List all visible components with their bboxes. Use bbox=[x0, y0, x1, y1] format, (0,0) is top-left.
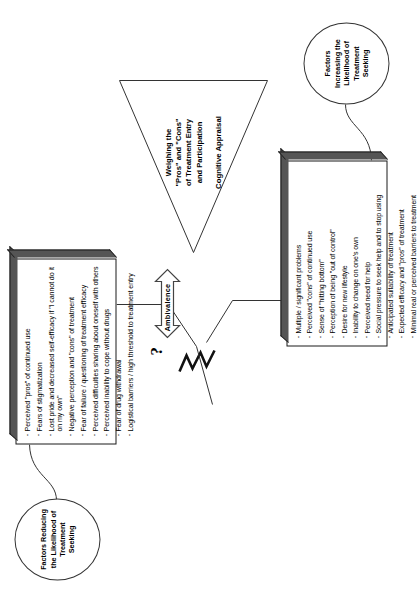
callout-reducing-label: Factors Reducing the Likelihood of Treat… bbox=[38, 499, 76, 579]
list-item: Fear of failure / questioning of treatme… bbox=[79, 266, 88, 436]
box-reducing-right-face bbox=[6, 249, 116, 257]
triangle-text-line: of Treatment Entry bbox=[183, 92, 193, 212]
callout-increasing-label: Factors Increasing the Likelihood of Tre… bbox=[322, 23, 369, 103]
list-item: Multiple / significant problems bbox=[294, 168, 302, 338]
list-item: Minimal real or perceived barriers to tr… bbox=[409, 168, 417, 338]
triangle-text-line: "Pros" and "Cons" bbox=[173, 92, 183, 212]
list-item: Sense of "hitting bottom" bbox=[317, 168, 325, 338]
increasing-bullet-list: Multiple / significant problems Perceive… bbox=[294, 168, 381, 338]
list-item: Expected efficacy and "pros" of treatmen… bbox=[397, 168, 405, 338]
callout-reducing-likelihood: Factors Reducing the Likelihood of Treat… bbox=[14, 498, 100, 580]
list-item: Perceived need for help bbox=[363, 168, 371, 338]
list-item: Perceived "cons" of continued use bbox=[305, 168, 313, 338]
box-increasing-factors: Multiple / significant problems Perceive… bbox=[286, 160, 387, 346]
box-reducing-factors: Perceived "pros" of continued use Fears … bbox=[15, 258, 116, 444]
triangle-text: Weighing the "Pros" and "Cons" of Treatm… bbox=[163, 92, 204, 212]
box-reducing-top-face bbox=[9, 245, 17, 440]
box-increasing-right-face bbox=[277, 151, 387, 159]
list-item: Negative perception and "cons" of treatm… bbox=[67, 266, 76, 436]
list-item: Fear of drug withdrawal bbox=[114, 266, 123, 436]
triangle-text-line: and Participation bbox=[194, 92, 204, 212]
list-item: Logistical barriers / high threshold to … bbox=[126, 266, 135, 436]
list-item: Perception of being "out of control" bbox=[328, 168, 336, 338]
list-item: Inability to change on one's own bbox=[351, 168, 359, 338]
list-item: Perceived inability to cope without drug… bbox=[102, 266, 111, 436]
box-increasing-top-face bbox=[280, 147, 288, 342]
list-item: Desire for new lifestyle bbox=[340, 168, 348, 338]
list-item: Lost pride and decreased self-efficacy i… bbox=[47, 266, 64, 436]
list-item: Social pressure to seek help and to stop… bbox=[374, 168, 382, 338]
reducing-bullet-list: Perceived "pros" of continued use Fears … bbox=[23, 266, 110, 436]
triangle-text-line: Weighing the bbox=[163, 92, 173, 212]
cognitive-appraisal-label: Cognitive Appraisal bbox=[213, 92, 223, 212]
list-item: Fears of stigmatization bbox=[35, 266, 44, 436]
list-item: Perceived "pros" of continued use bbox=[23, 266, 32, 436]
callout-increasing-likelihood: Factors Increasing the Likelihood of Tre… bbox=[303, 22, 389, 104]
list-item: Anticipated suitability of treatment bbox=[386, 168, 394, 338]
ambivalence-label: Ambivalence bbox=[162, 283, 171, 331]
list-item: Perceived difficulties sharing about one… bbox=[91, 266, 100, 436]
